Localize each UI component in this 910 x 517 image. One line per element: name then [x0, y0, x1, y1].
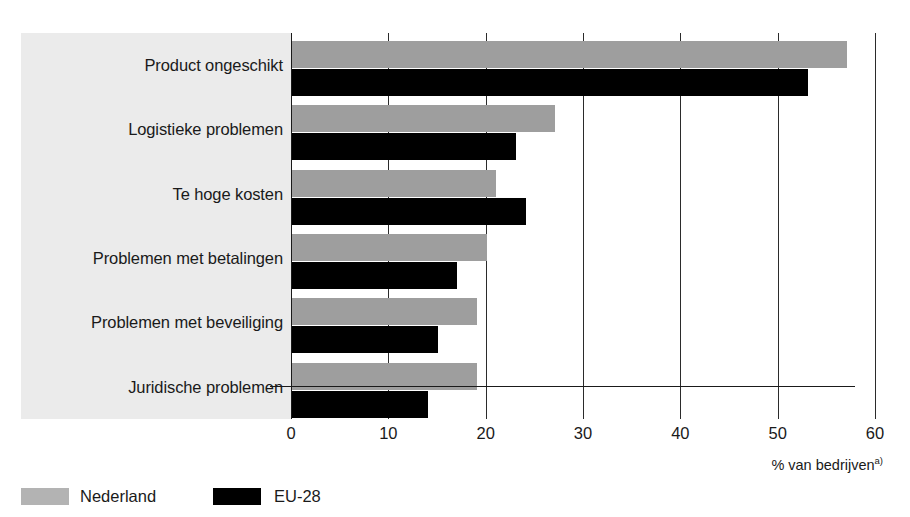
- bar-chart: Product ongeschiktLogistieke problemenTe…: [0, 0, 910, 517]
- legend-item-eu28: EU-28: [213, 483, 321, 509]
- bar-nederland: [292, 298, 477, 325]
- category-label: Logistieke problemen: [128, 120, 283, 138]
- gridline-60: [875, 33, 876, 419]
- x-tick-label-40: 40: [671, 424, 689, 443]
- bar-eu-28: [292, 133, 516, 160]
- x-axis-caption-footnote: a): [875, 455, 883, 466]
- category-label: Product ongeschikt: [144, 56, 283, 74]
- bar-eu-28: [292, 69, 808, 96]
- category-row: Product ongeschikt: [21, 33, 875, 97]
- plot-area: Product ongeschiktLogistieke problemenTe…: [21, 33, 875, 419]
- x-axis-caption: % van bedrijvena): [771, 455, 883, 473]
- category-label: Problemen met beveiliging: [91, 313, 283, 331]
- bar-nederland: [292, 41, 847, 68]
- x-axis-line: [270, 386, 855, 387]
- legend-swatch-eu28: [213, 488, 261, 505]
- x-tick-label-60: 60: [866, 424, 884, 443]
- x-tick-label-20: 20: [476, 424, 494, 443]
- legend-swatch-nederland: [21, 488, 69, 505]
- category-row: Te hoge kosten: [21, 162, 875, 226]
- bar-nederland: [292, 234, 487, 261]
- legend-label-nederland: Nederland: [80, 487, 156, 506]
- x-tick-label-10: 10: [379, 424, 397, 443]
- bar-eu-28: [292, 391, 428, 418]
- x-axis-caption-text: % van bedrijven: [771, 457, 874, 473]
- x-tick-label-0: 0: [286, 424, 295, 443]
- legend-label-eu28: EU-28: [274, 487, 321, 506]
- x-tick-label-30: 30: [574, 424, 592, 443]
- legend-item-nederland: Nederland: [21, 483, 156, 509]
- bar-nederland: [292, 170, 496, 197]
- bar-eu-28: [292, 198, 526, 225]
- bar-eu-28: [292, 326, 438, 353]
- x-tick-label-50: 50: [768, 424, 786, 443]
- category-row: Logistieke problemen: [21, 97, 875, 161]
- category-label: Problemen met betalingen: [93, 249, 283, 267]
- category-label: Juridische problemen: [128, 378, 283, 396]
- category-row: Problemen met betalingen: [21, 226, 875, 290]
- category-row: Problemen met beveiliging: [21, 290, 875, 354]
- category-label: Te hoge kosten: [172, 185, 283, 203]
- bar-eu-28: [292, 262, 457, 289]
- bar-nederland: [292, 105, 555, 132]
